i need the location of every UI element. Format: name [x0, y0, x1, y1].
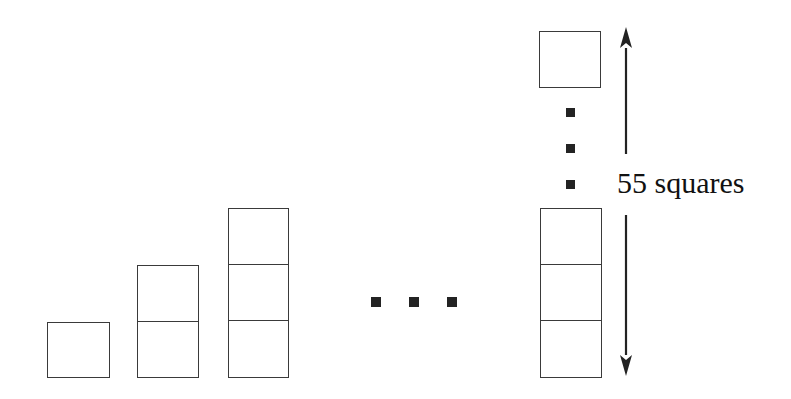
measure-arrow-down [620, 215, 632, 376]
measure-arrow-up [620, 27, 632, 154]
squares-count-label: 55 squares [617, 168, 744, 198]
measure-arrow-layer [0, 0, 791, 399]
pattern-figure: 55 squares [0, 0, 791, 399]
measure-arrow-down-head [620, 355, 632, 376]
measure-arrow-up-head [620, 27, 632, 48]
